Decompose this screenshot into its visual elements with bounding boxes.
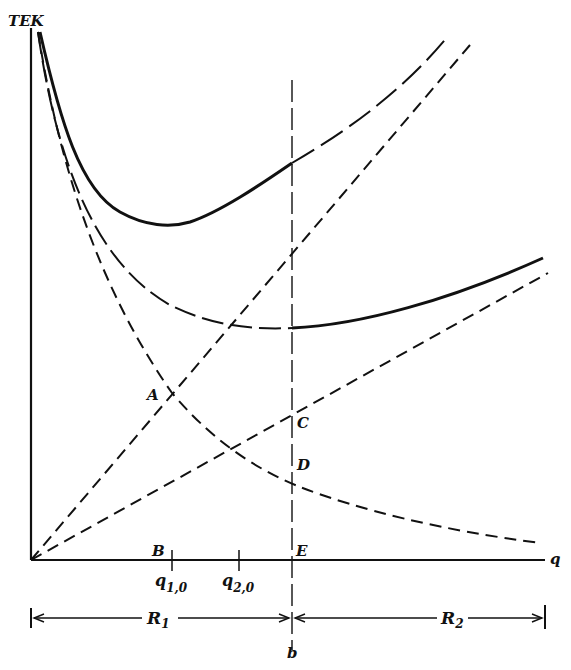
range-r1-label: R1 [146, 608, 170, 631]
cost-diagram: TEK q A B C D E q1,0 q2,0 R1 R2 b [0, 0, 571, 670]
tick-q10-label: q1,0 [155, 571, 188, 595]
variable-cost-line-2 [31, 273, 548, 560]
y-axis-label: TEK [8, 12, 45, 30]
point-c-label: C [297, 414, 309, 432]
point-a-label: A [145, 386, 159, 404]
total-cost-curve-r2-solid [292, 258, 543, 328]
point-d-label: D [296, 456, 310, 474]
range-r2-label: R2 [440, 608, 464, 631]
fixed-cost-hyperbola [38, 32, 540, 543]
total-cost-curve-r1-dashed [292, 35, 449, 163]
boundary-b-label: b [287, 644, 298, 662]
point-b-label: B [151, 542, 165, 560]
variable-cost-line-1 [31, 45, 470, 560]
x-axis-label: q [550, 550, 561, 568]
point-e-label: E [295, 542, 308, 560]
total-cost-curve-r2-dashed [38, 32, 292, 328]
total-cost-curve-r1-solid [40, 32, 292, 225]
tick-q20-label: q2,0 [222, 571, 255, 595]
